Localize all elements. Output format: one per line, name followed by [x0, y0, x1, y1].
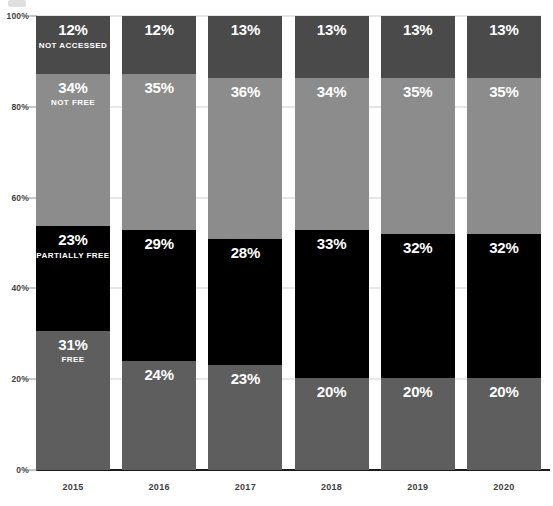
segment-value-label: 13% [489, 22, 518, 38]
bar-segment-2017-free[interactable]: 23% [208, 365, 282, 470]
segment-value-label: 33% [317, 236, 346, 252]
segment-category-label: PARTIALLY FREE [36, 251, 109, 260]
segment-value-label: 35% [144, 80, 173, 96]
segment-value-label: 35% [403, 84, 432, 100]
segment-value-label: 32% [403, 240, 432, 256]
bar-segment-2015-free[interactable]: 31%FREE [36, 331, 110, 470]
segment-value-label: 13% [403, 22, 432, 38]
bar-column-2017[interactable]: 13%36%28%23% [208, 16, 282, 470]
segment-category-label: NOT FREE [51, 98, 95, 107]
segment-category-label: FREE [61, 355, 84, 364]
bar-segment-2018-free[interactable]: 20% [295, 378, 369, 470]
bar-segment-2019-not_accessed[interactable]: 13% [381, 16, 455, 78]
segment-category-label: NOT ACCESSED [39, 41, 108, 50]
segment-value-label: 13% [231, 22, 260, 38]
bar-column-2020[interactable]: 13%35%32%20% [467, 16, 541, 470]
x-tick-label-2015: 2015 [36, 482, 110, 492]
bar-column-2016[interactable]: 12%35%29%24% [122, 16, 196, 470]
segment-value-label: 34% [58, 80, 87, 96]
segment-value-label: 34% [317, 84, 346, 100]
segment-value-label: 12% [144, 22, 173, 38]
x-axis-labels: 201520162017201820192020 [36, 482, 541, 492]
bar-segment-2018-not_accessed[interactable]: 13% [295, 16, 369, 78]
stacked-bar-chart: 100%80%60%40%20%0% 12%NOT ACCESSED34%NOT… [0, 0, 553, 506]
segment-value-label: 24% [144, 367, 173, 383]
x-tick-label-2017: 2017 [208, 482, 282, 492]
bar-column-2015[interactable]: 12%NOT ACCESSED34%NOT FREE23%PARTIALLY F… [36, 16, 110, 470]
segment-value-label: 20% [317, 384, 346, 400]
y-tick-label-60: 60% [11, 193, 29, 203]
y-tick-label-100: 100% [6, 11, 29, 21]
bar-segment-2020-not_free[interactable]: 35% [467, 78, 541, 235]
y-tick-label-80: 80% [11, 102, 29, 112]
bar-segment-2015-not_free[interactable]: 34%NOT FREE [36, 74, 110, 226]
bar-segment-2018-partially_free[interactable]: 33% [295, 230, 369, 378]
clipped-header-artifact [8, 0, 26, 7]
segment-value-label: 35% [489, 84, 518, 100]
x-tick-label-2016: 2016 [122, 482, 196, 492]
bar-segment-2020-free[interactable]: 20% [467, 378, 541, 470]
segment-value-label: 12% [58, 22, 87, 38]
segment-value-label: 36% [231, 84, 260, 100]
bar-column-2018[interactable]: 13%34%33%20% [295, 16, 369, 470]
x-tick-label-2018: 2018 [295, 482, 369, 492]
plot-area: 100%80%60%40%20%0% 12%NOT ACCESSED34%NOT… [36, 16, 541, 470]
segment-value-label: 20% [489, 384, 518, 400]
y-tick-label-20: 20% [11, 374, 29, 384]
bar-segment-2015-not_accessed[interactable]: 12%NOT ACCESSED [36, 16, 110, 74]
bar-segment-2020-not_accessed[interactable]: 13% [467, 16, 541, 78]
y-tick-label-0: 0% [16, 465, 29, 475]
segment-value-label: 29% [144, 236, 173, 252]
segment-value-label: 31% [58, 337, 87, 353]
bars-layer: 12%NOT ACCESSED34%NOT FREE23%PARTIALLY F… [36, 16, 541, 470]
bar-segment-2017-not_free[interactable]: 36% [208, 78, 282, 239]
bar-segment-2016-not_free[interactable]: 35% [122, 74, 196, 231]
bar-segment-2016-not_accessed[interactable]: 12% [122, 16, 196, 74]
bar-segment-2015-partially_free[interactable]: 23%PARTIALLY FREE [36, 226, 110, 331]
segment-value-label: 32% [489, 240, 518, 256]
y-tick-label-40: 40% [11, 283, 29, 293]
bar-segment-2019-free[interactable]: 20% [381, 378, 455, 470]
x-tick-label-2019: 2019 [381, 482, 455, 492]
bar-segment-2017-partially_free[interactable]: 28% [208, 239, 282, 365]
bar-segment-2016-free[interactable]: 24% [122, 361, 196, 470]
segment-value-label: 13% [317, 22, 346, 38]
bar-segment-2019-not_free[interactable]: 35% [381, 78, 455, 235]
bar-segment-2018-not_free[interactable]: 34% [295, 78, 369, 230]
bar-segment-2017-not_accessed[interactable]: 13% [208, 16, 282, 78]
bar-segment-2020-partially_free[interactable]: 32% [467, 234, 541, 378]
segment-value-label: 20% [403, 384, 432, 400]
bar-column-2019[interactable]: 13%35%32%20% [381, 16, 455, 470]
bar-segment-2019-partially_free[interactable]: 32% [381, 234, 455, 378]
x-tick-label-2020: 2020 [467, 482, 541, 492]
segment-value-label: 28% [231, 245, 260, 261]
bar-segment-2016-partially_free[interactable]: 29% [122, 230, 196, 361]
segment-value-label: 23% [58, 232, 87, 248]
segment-value-label: 23% [231, 371, 260, 387]
